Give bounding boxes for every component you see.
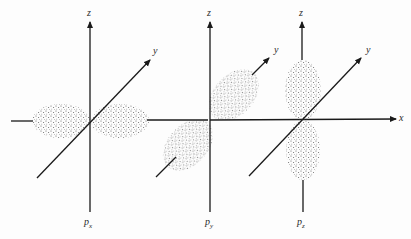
pz-orbital-label: pz	[297, 217, 305, 230]
px-orbital-label: px	[84, 217, 92, 230]
px-y-label: y	[153, 46, 157, 56]
panel-pz	[249, 22, 361, 212]
panel-px	[32, 22, 150, 212]
py-orbital-label: py	[205, 217, 213, 230]
px-lobe-left	[32, 104, 90, 138]
pz-y-label: y	[366, 45, 370, 55]
py-y-label: y	[274, 45, 278, 55]
py-y-axis-upper	[252, 58, 269, 75]
px-lobe-right	[91, 104, 149, 138]
pz-lobe-lower	[286, 120, 320, 180]
pz-lobe-upper	[285, 60, 321, 120]
pz-z-label: z	[299, 8, 303, 18]
px-z-label: z	[87, 8, 91, 18]
p-orbitals-diagram: z y px z y py z y x pz	[0, 0, 411, 239]
orbital-drawing	[0, 0, 411, 239]
py-z-label: z	[207, 8, 211, 18]
x-label: x	[399, 113, 403, 123]
panel-py	[153, 22, 269, 212]
